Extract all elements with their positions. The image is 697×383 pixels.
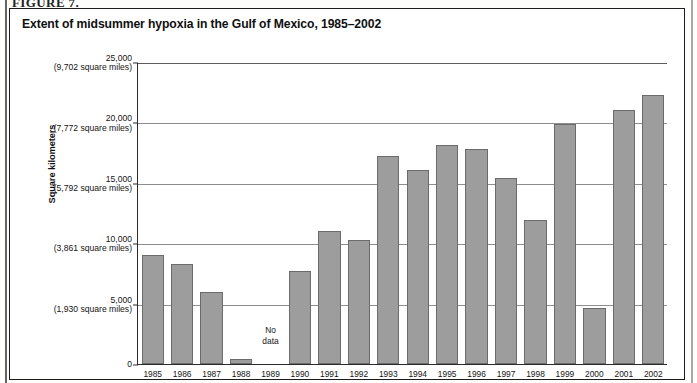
- bar-1994[interactable]: [407, 170, 429, 364]
- y-tick-miles: (7,772 square miles): [54, 123, 132, 132]
- x-tick-label-2002: 2002: [644, 369, 663, 379]
- y-tick-miles: (1,930 square miles): [54, 305, 132, 314]
- bar-slot-1997[interactable]: 1997: [491, 63, 520, 364]
- x-tick-label-1998: 1998: [526, 369, 545, 379]
- x-tick-label-1991: 1991: [320, 369, 339, 379]
- bar-slot-2000[interactable]: 2000: [580, 63, 609, 364]
- x-tick-label-1994: 1994: [408, 369, 427, 379]
- y-tick-mark-0: [133, 365, 138, 366]
- y-tick-miles: (5,792 square miles): [54, 184, 132, 193]
- x-tick-label-1990: 1990: [291, 369, 310, 379]
- bar-slot-2001[interactable]: 2001: [609, 63, 638, 364]
- bar-slot-1999[interactable]: 1999: [550, 63, 579, 364]
- x-tick-label-1988: 1988: [232, 369, 251, 379]
- bar-1990[interactable]: [289, 271, 311, 364]
- bar-slot-1989[interactable]: Nodata1989: [256, 63, 285, 364]
- bar-1999[interactable]: [554, 124, 576, 364]
- y-tick-label-15000: 15,000(5,792 square miles): [54, 175, 132, 194]
- bar-slot-1996[interactable]: 1996: [462, 63, 491, 364]
- bar-1995[interactable]: [436, 145, 458, 364]
- y-tick-label-20000: 20,000(7,772 square miles): [54, 114, 132, 133]
- x-tick-label-1999: 1999: [556, 369, 575, 379]
- scanned-page: FIGURE 7. Extent of midsummer hypoxia in…: [0, 0, 697, 383]
- bar-slot-1991[interactable]: 1991: [315, 63, 344, 364]
- x-tick-label-1992: 1992: [350, 369, 369, 379]
- bar-1987[interactable]: [200, 292, 222, 364]
- bar-slot-2002[interactable]: 2002: [639, 63, 668, 364]
- chart-plot-wrapper: Square kilometers 25,000(9,702 square mi…: [10, 9, 686, 381]
- no-data-annotation: Nodata: [262, 325, 278, 346]
- bar-2001[interactable]: [613, 110, 635, 364]
- figure-box: Extent of midsummer hypoxia in the Gulf …: [9, 8, 685, 380]
- x-tick-label-1989: 1989: [261, 369, 280, 379]
- bar-1996[interactable]: [465, 149, 487, 364]
- y-tick-miles: (9,702 square miles): [54, 63, 132, 72]
- x-tick-label-2000: 2000: [585, 369, 604, 379]
- y-tick-label-0: 0: [127, 360, 132, 369]
- bar-slot-1994[interactable]: 1994: [403, 63, 432, 364]
- x-tick-label-1987: 1987: [202, 369, 221, 379]
- bar-2000[interactable]: [583, 308, 605, 364]
- page-gutter-left: [5, 0, 7, 383]
- bar-slot-1993[interactable]: 1993: [374, 63, 403, 364]
- bar-2002[interactable]: [642, 95, 664, 364]
- x-tick-label-1996: 1996: [467, 369, 486, 379]
- x-tick-label-1995: 1995: [438, 369, 457, 379]
- bar-slot-1986[interactable]: 1986: [167, 63, 196, 364]
- plot-area: 25,000(9,702 square miles)20,000(7,772 s…: [137, 63, 667, 365]
- x-tick-label-1985: 1985: [143, 369, 162, 379]
- bar-1986[interactable]: [171, 264, 193, 364]
- bar-1991[interactable]: [318, 231, 340, 364]
- bar-slot-1988[interactable]: 1988: [226, 63, 255, 364]
- page-edge-right: [691, 0, 693, 383]
- y-tick-km: 0: [127, 360, 132, 369]
- bar-slot-1990[interactable]: 1990: [285, 63, 314, 364]
- figure-caption: FIGURE 7.: [12, 0, 79, 7]
- y-tick-label-10000: 10,000(3,861 square miles): [54, 235, 132, 254]
- bar-1993[interactable]: [377, 156, 399, 364]
- bar-slot-1998[interactable]: 1998: [521, 63, 550, 364]
- bar-slot-1987[interactable]: 1987: [197, 63, 226, 364]
- x-tick-label-2001: 2001: [615, 369, 634, 379]
- bar-series: 1985198619871988Nodata198919901991199219…: [138, 63, 667, 364]
- y-tick-label-25000: 25,000(9,702 square miles): [54, 54, 132, 73]
- y-tick-miles: (3,861 square miles): [54, 244, 132, 253]
- x-tick-label-1997: 1997: [497, 369, 516, 379]
- bar-1988[interactable]: [230, 359, 252, 364]
- bar-slot-1992[interactable]: 1992: [344, 63, 373, 364]
- x-tick-label-1993: 1993: [379, 369, 398, 379]
- bar-1998[interactable]: [524, 220, 546, 364]
- bar-slot-1985[interactable]: 1985: [138, 63, 167, 364]
- bar-slot-1995[interactable]: 1995: [432, 63, 461, 364]
- bar-1997[interactable]: [495, 178, 517, 364]
- y-tick-label-5000: 5,000(1,930 square miles): [54, 295, 132, 314]
- x-tick-label-1986: 1986: [173, 369, 192, 379]
- bar-1992[interactable]: [348, 240, 370, 364]
- bar-1985[interactable]: [142, 255, 164, 364]
